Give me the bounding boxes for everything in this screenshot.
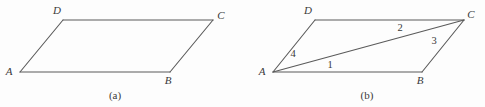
panel-b-angle-label-3: 3	[431, 35, 436, 46]
panel-a: A B C D (a)	[5, 4, 226, 102]
panel-b-angle-label-1: 1	[327, 59, 332, 70]
panel-b-vertex-label-A: A	[258, 65, 266, 77]
panel-b-side-DA	[273, 20, 315, 72]
panel-a-parallelogram	[20, 20, 213, 72]
figure-svg-canvas: A B C D (a) A B C D 1 2 3 4 (b)	[0, 0, 485, 107]
panel-a-side-DA	[20, 20, 63, 72]
panel-a-vertex-label-D: D	[52, 4, 61, 16]
panel-b-diagonal-AC	[273, 20, 464, 72]
panel-a-vertex-label-C: C	[217, 9, 225, 21]
panel-b-angle-label-4: 4	[290, 48, 296, 59]
panel-b-side-BC	[422, 20, 464, 72]
panel-b-vertex-label-C: C	[467, 8, 475, 20]
geometry-figure-container: A B C D (a) A B C D 1 2 3 4 (b)	[0, 0, 485, 107]
panel-b-vertex-label-D: D	[303, 4, 312, 16]
panel-a-side-BC	[170, 20, 213, 72]
panel-a-vertex-label-B: B	[165, 74, 172, 86]
panel-b: A B C D 1 2 3 4 (b)	[258, 4, 476, 102]
panel-a-vertex-label-A: A	[5, 65, 13, 77]
panel-b-angle-label-2: 2	[397, 22, 402, 33]
panel-b-vertex-label-B: B	[417, 74, 424, 86]
panel-b-caption: (b)	[361, 89, 374, 102]
panel-a-caption: (a)	[109, 89, 122, 102]
